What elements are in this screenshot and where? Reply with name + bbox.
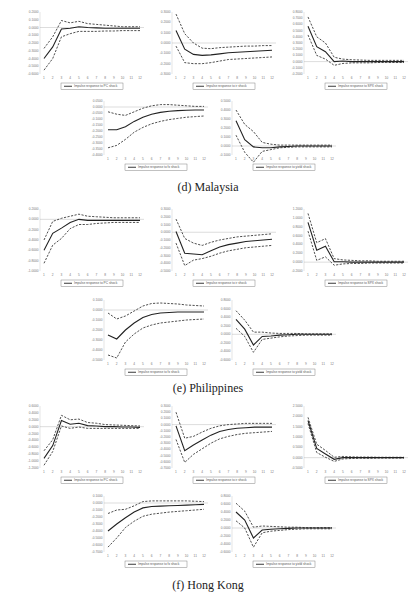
x-tick-label: 4 [333,76,335,80]
y-tick-label: 0.6000 [221,502,231,506]
y-tick-label: 0.0500 [93,99,103,103]
series-upper [236,110,332,145]
y-tick-label: 0.4000 [293,242,303,246]
x-tick-label: 4 [133,157,135,161]
x-tick-label: 6 [151,362,153,366]
chart-svg: 0.30000.20000.10000.0000-0.1000-0.2000-0… [150,205,280,293]
series-upper [308,17,404,60]
x-tick-label: 9 [177,554,179,558]
x-tick-label: 11 [262,470,266,474]
x-tick-label: 9 [305,362,307,366]
y-tick-label: -0.2000 [160,435,171,439]
x-tick-label: 5 [342,273,344,277]
y-tick-label: -0.4000 [160,447,171,451]
x-tick-label: 3 [193,470,195,474]
y-tick-label: -0.5000 [160,454,171,458]
x-tick-label: 8 [368,76,370,80]
x-tick-label: 6 [279,157,281,161]
series-response [108,504,204,531]
y-tick-label: -0.1000 [160,429,171,433]
chart-svg: 0.60000.40000.20000.0000-0.2000-0.4000-0… [18,402,148,490]
y-tick-label: 0.1000 [29,18,39,22]
x-tick-label: 7 [359,76,361,80]
chart-hk-fx: 0.10000.0000-0.1000-0.2000-0.3000-0.4000… [82,492,212,574]
x-tick-label: 6 [219,470,221,474]
y-tick-label: -0.2000 [28,41,39,45]
x-tick-label: 1 [175,76,177,80]
x-tick-label: 6 [279,554,281,558]
x-tick-label: 10 [385,273,389,277]
x-tick-label: 1 [175,470,177,474]
y-tick-label: -0.3000 [160,72,171,76]
series-response [108,110,204,130]
x-tick-label: 6 [87,273,89,277]
x-tick-label: 2 [184,76,186,80]
y-tick-label: 0.4000 [221,315,231,319]
x-tick-label: 2 [244,554,246,558]
x-tick-label: 6 [219,273,221,277]
y-tick-label: 0.0000 [221,526,231,530]
y-tick-label: 0.0000 [161,230,171,234]
series-response [236,121,332,148]
series-upper [236,311,332,334]
y-tick-label: 0.2000 [293,251,303,255]
series-upper [108,501,204,514]
series-lower [176,243,272,265]
x-tick-label: 1 [43,470,45,474]
x-tick-label: 3 [125,157,127,161]
x-tick-label: 8 [104,470,106,474]
legend-label: Impulse response to fx shock [138,165,180,169]
x-tick-label: 10 [313,554,317,558]
x-tick-label: 4 [333,273,335,277]
x-tick-label: 1 [175,273,177,277]
x-tick-label: 10 [253,76,257,80]
x-tick-label: 2 [184,470,186,474]
y-tick-label: -0.4000 [92,529,103,533]
y-tick-label: 0.4000 [221,108,231,112]
chart-ph-yield: 0.80000.60000.40000.20000.0000-0.2000-0.… [210,296,340,382]
legend-label: Impulse response to SPX shock [338,478,384,482]
x-tick-label: 8 [368,470,370,474]
series-lower [108,116,204,148]
x-tick-label: 12 [138,273,142,277]
y-tick-label: -0.3000 [92,338,103,342]
x-tick-label: 12 [202,362,206,366]
x-tick-label: 4 [133,362,135,366]
legend-label: Impulse response to yield shock [266,370,312,374]
x-tick-label: 8 [168,554,170,558]
x-tick-label: 12 [202,157,206,161]
x-tick-label: 2 [316,273,318,277]
legend-label: Impulse response to PC shock [74,84,118,88]
chart-svg: 0.50000.40000.30000.20000.10000.0000-0.1… [210,97,340,177]
x-tick-label: 8 [296,157,298,161]
series-upper [44,214,140,240]
series-lower [176,46,272,64]
x-tick-label: 12 [330,157,334,161]
chart-hk-ir: 0.30000.20000.10000.0000-0.1000-0.2000-0… [150,402,280,490]
x-tick-label: 1 [107,157,109,161]
y-tick-label: 0.2000 [29,207,39,211]
y-tick-label: -0.2000 [92,328,103,332]
x-tick-label: 7 [227,273,229,277]
x-tick-label: 6 [87,76,89,80]
x-tick-label: 3 [61,470,63,474]
x-tick-label: 1 [43,76,45,80]
y-tick-label: -1.2000 [28,466,39,470]
x-tick-label: 9 [245,76,247,80]
x-tick-label: 4 [133,554,135,558]
x-tick-label: 4 [69,76,71,80]
x-tick-label: 6 [351,273,353,277]
y-tick-label: 2.0000 [293,414,303,418]
y-tick-label: 0.2000 [29,418,39,422]
y-tick-label: -0.6000 [220,550,231,554]
y-tick-label: -0.5000 [292,466,303,470]
x-tick-label: 10 [313,157,317,161]
x-tick-label: 9 [177,362,179,366]
x-tick-label: 5 [270,362,272,366]
x-tick-label: 2 [52,76,54,80]
y-tick-label: 0.7000 [293,16,303,20]
legend-label: Impulse response to ir shock [206,478,247,482]
x-tick-label: 3 [193,76,195,80]
x-tick-label: 1 [307,76,309,80]
chart-ph-pc: 0.20000.0000-0.2000-0.4000-0.6000-0.8000… [18,205,148,293]
